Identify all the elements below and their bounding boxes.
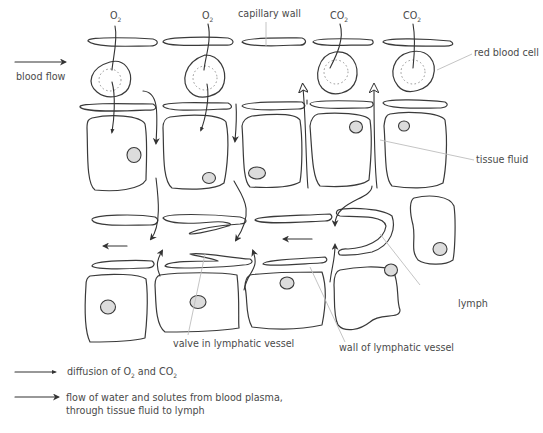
legend-flow-line-1: flow of water and solutes from blood pla… [66, 391, 283, 404]
lymph-label: lymph [458, 297, 488, 310]
co2-label-1: CO2 [330, 10, 348, 23]
blood-flow-label: blood flow [16, 70, 65, 83]
tissue-fluid-label: tissue fluid [476, 153, 528, 166]
co2-label-2: CO2 [403, 10, 421, 23]
capillary-lymph-diagram: O2 O2 CO2 CO2 diffusion of O2 and CO2 [0, 0, 543, 433]
capillary-wall-label: capillary wall [238, 7, 301, 20]
o2-label-2: O2 [202, 10, 214, 23]
tissue-cells-bottom [85, 196, 455, 342]
o2-label-1: O2 [110, 10, 122, 23]
lymph-wall-label: wall of lymphatic vessel [339, 341, 454, 354]
legend-flow-line-2: through tissue fluid to lymph [66, 404, 283, 417]
water-flow-paths [104, 88, 377, 290]
red-blood-cell-label: red blood cell [474, 46, 539, 59]
legend-flow-text: flow of water and solutes from blood pla… [66, 391, 283, 417]
legend-diffusion-text: diffusion of O2 and CO2 [67, 366, 177, 379]
lymphatic-vessel-walls [92, 208, 393, 268]
leader-lines [188, 22, 474, 342]
valve-label: valve in lymphatic vessel [173, 337, 294, 350]
capillary-wall-top [88, 37, 453, 46]
capillary-wall-bottom [80, 100, 447, 111]
red-blood-cells [91, 51, 434, 97]
tissue-cells-middle [87, 112, 446, 190]
